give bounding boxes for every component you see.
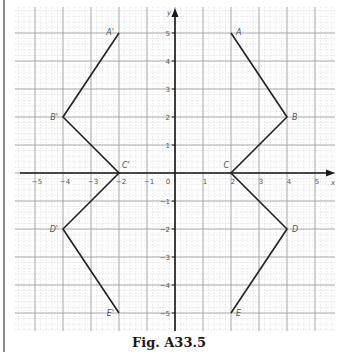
point-label: D': [50, 225, 58, 234]
svg-text:3: 3: [166, 86, 170, 94]
svg-text:0: 0: [166, 178, 170, 186]
point-label: A': [105, 28, 114, 37]
figure-caption: Fig. A33.5: [0, 335, 338, 350]
svg-text:4: 4: [287, 178, 292, 186]
axes: [20, 8, 335, 331]
svg-text:−5: −5: [160, 310, 170, 318]
svg-text:1: 1: [166, 142, 170, 150]
svg-text:−2: −2: [160, 226, 170, 234]
svg-text:−5: −5: [32, 178, 42, 186]
svg-text:−4: −4: [160, 282, 171, 290]
svg-text:1: 1: [203, 178, 207, 186]
svg-text:3: 3: [259, 178, 263, 186]
point-label: C': [122, 161, 130, 170]
point-label: A: [235, 28, 241, 37]
coordinate-grid-figure: xy−5−4−3−2−1012345−5−4−3−2−112345 ABCDEA…: [0, 0, 338, 355]
svg-text:4: 4: [166, 58, 171, 66]
svg-text:−4: −4: [60, 178, 71, 186]
point-label: E: [236, 309, 242, 318]
point-label: C: [223, 161, 229, 170]
svg-text:−1: −1: [144, 178, 154, 186]
svg-text:2: 2: [166, 114, 170, 122]
point-label: B: [292, 113, 298, 122]
svg-text:y: y: [166, 9, 172, 17]
svg-text:5: 5: [315, 178, 319, 186]
svg-text:−2: −2: [116, 178, 126, 186]
svg-text:−3: −3: [160, 254, 170, 262]
point-label: E': [107, 309, 114, 318]
svg-text:−3: −3: [88, 178, 98, 186]
svg-text:5: 5: [166, 30, 170, 38]
svg-text:−1: −1: [160, 198, 170, 206]
point-label: B': [50, 113, 58, 122]
svg-text:x: x: [330, 179, 336, 187]
svg-text:2: 2: [231, 178, 235, 186]
point-label: D: [292, 225, 298, 234]
